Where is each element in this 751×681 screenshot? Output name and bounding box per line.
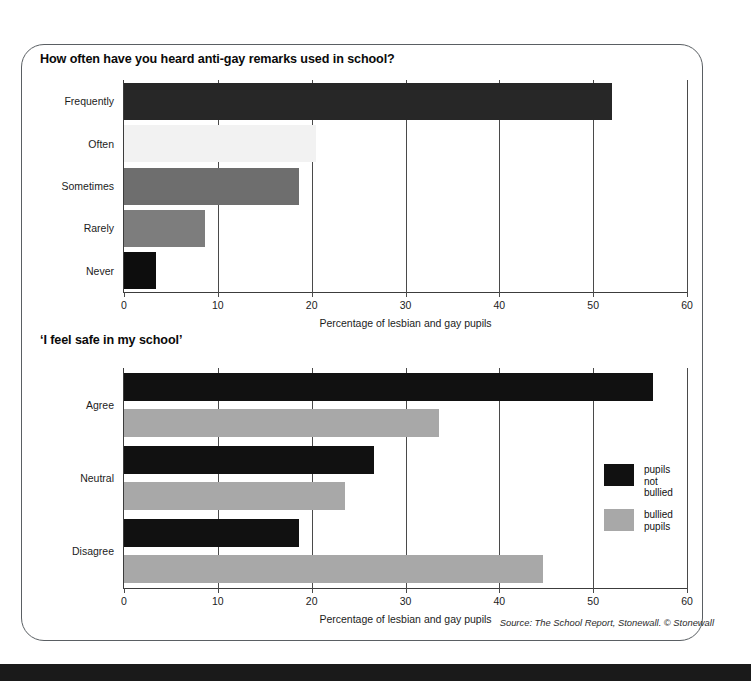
legend-label: bullied pupils bbox=[644, 509, 673, 532]
x-tick-mark bbox=[406, 292, 407, 297]
x-tick-label: 40 bbox=[493, 299, 505, 311]
y-tick-label: Rarely bbox=[30, 222, 114, 234]
legend-swatch bbox=[604, 464, 634, 486]
x-tick-mark bbox=[124, 292, 125, 297]
x-tick-label: 20 bbox=[306, 299, 318, 311]
y-tick-label: Sometimes bbox=[30, 180, 114, 192]
y-tick-label: Never bbox=[30, 265, 114, 277]
legend-item-pupils-not-bullied[interactable]: pupils not bullied bbox=[604, 464, 673, 499]
bar-never bbox=[124, 252, 156, 289]
x-tick-mark bbox=[593, 292, 594, 297]
x-tick-mark bbox=[218, 292, 219, 297]
x-tick-label: 10 bbox=[212, 299, 224, 311]
x-tick-mark bbox=[312, 292, 313, 297]
y-tick-label: Frequently bbox=[30, 95, 114, 107]
x-tick-label: 30 bbox=[400, 595, 412, 607]
x-tick-label: 20 bbox=[306, 595, 318, 607]
chart-1-title: How often have you heard anti-gay remark… bbox=[40, 52, 395, 66]
gridline bbox=[687, 368, 688, 588]
x-tick-label: 50 bbox=[587, 299, 599, 311]
x-tick-mark bbox=[406, 588, 407, 593]
chart-2-plot-area bbox=[124, 368, 687, 588]
x-tick-label: 60 bbox=[681, 299, 693, 311]
source-attribution: Source: The School Report, Stonewall. © … bbox=[500, 617, 714, 628]
chart-2-title: ‘I feel safe in my school’ bbox=[40, 333, 182, 347]
x-tick-label: 50 bbox=[587, 595, 599, 607]
chart-1-plot-area bbox=[124, 80, 687, 292]
x-tick-mark bbox=[124, 588, 125, 593]
bar-disagree-bullied-pupils bbox=[124, 555, 543, 583]
legend-item-bullied-pupils[interactable]: bullied pupils bbox=[604, 509, 673, 532]
y-tick-label: Disagree bbox=[30, 545, 114, 557]
legend-label: pupils not bullied bbox=[644, 464, 673, 499]
chart-1-x-axis-title: Percentage of lesbian and gay pupils bbox=[319, 317, 491, 329]
bottom-edge-bar bbox=[0, 664, 751, 681]
legend-swatch bbox=[604, 509, 634, 531]
y-tick-label: Often bbox=[30, 138, 114, 150]
x-tick-label: 60 bbox=[681, 595, 693, 607]
bar-agree-pupils-not-bullied bbox=[124, 373, 653, 401]
bar-neutral-bullied-pupils bbox=[124, 482, 345, 510]
x-tick-mark bbox=[218, 588, 219, 593]
x-tick-mark bbox=[499, 292, 500, 297]
x-tick-mark bbox=[687, 292, 688, 297]
x-tick-label: 0 bbox=[121, 299, 127, 311]
x-tick-mark bbox=[312, 588, 313, 593]
x-tick-mark bbox=[499, 588, 500, 593]
x-tick-mark bbox=[687, 588, 688, 593]
source-text: Source: The School Report, Stonewall. © … bbox=[500, 617, 714, 628]
x-tick-label: 0 bbox=[121, 595, 127, 607]
y-tick-label: Neutral bbox=[30, 472, 114, 484]
x-tick-label: 10 bbox=[212, 595, 224, 607]
bar-rarely bbox=[124, 210, 205, 247]
gridline bbox=[593, 368, 594, 588]
x-tick-label: 40 bbox=[493, 595, 505, 607]
gridline bbox=[687, 80, 688, 292]
x-tick-label: 30 bbox=[400, 299, 412, 311]
bar-sometimes bbox=[124, 168, 299, 205]
bar-frequently bbox=[124, 83, 612, 120]
bar-neutral-pupils-not-bullied bbox=[124, 446, 374, 474]
bar-disagree-pupils-not-bullied bbox=[124, 519, 299, 547]
bar-often bbox=[124, 125, 316, 162]
x-tick-mark bbox=[593, 588, 594, 593]
bar-agree-bullied-pupils bbox=[124, 409, 439, 437]
page-root: How often have you heard anti-gay remark… bbox=[0, 0, 751, 681]
y-tick-label: Agree bbox=[30, 399, 114, 411]
chart-2-x-axis-title: Percentage of lesbian and gay pupils bbox=[319, 613, 491, 625]
